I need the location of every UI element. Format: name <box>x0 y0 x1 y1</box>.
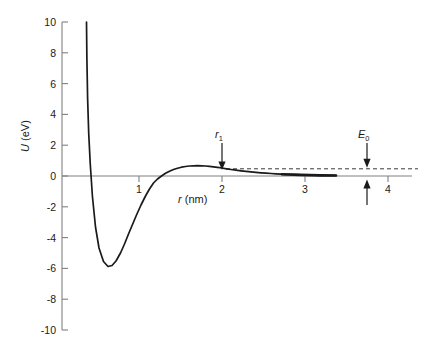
y-axis-title-variable: U <box>19 144 31 152</box>
y-tick-label-4: 4 <box>10 109 56 120</box>
y-axis-title: U (eV) <box>20 120 31 152</box>
y-tick-label-neg2: -2 <box>10 202 56 213</box>
y-tick-label-10: 10 <box>10 17 56 28</box>
x-axis-ticks <box>139 176 388 182</box>
y-tick-label-6: 6 <box>10 79 56 90</box>
E0-annotation-label: E0 <box>358 129 370 140</box>
E0-label-subscript: 0 <box>365 134 369 143</box>
E0-annotation-arrows <box>363 143 370 205</box>
y-tick-label-0: 0 <box>10 171 56 182</box>
x-tick-label-1: 1 <box>129 184 149 195</box>
r1-label-subscript: 1 <box>219 134 223 143</box>
y-tick-label-2: 2 <box>10 140 56 151</box>
y-tick-label-8: 8 <box>10 48 56 59</box>
x-tick-label-4: 4 <box>378 184 398 195</box>
r1-annotation-label: r1 <box>215 129 223 140</box>
y-tick-label-neg10: -10 <box>10 325 56 336</box>
y-tick-label-neg6: -6 <box>10 263 56 274</box>
potential-energy-chart: 10 8 6 4 2 0 -2 -4 -6 -8 -10 1 2 3 4 U (… <box>0 0 432 356</box>
x-tick-label-3: 3 <box>295 184 315 195</box>
y-axis-title-unit: (eV) <box>19 120 31 144</box>
x-tick-label-2: 2 <box>212 184 232 195</box>
potential-curve-tail-emphasis <box>282 174 336 175</box>
r1-annotation-arrow <box>218 143 225 170</box>
y-tick-label-neg4: -4 <box>10 233 56 244</box>
x-axis-title-unit: (nm) <box>182 193 208 205</box>
chart-canvas <box>0 0 432 356</box>
potential-energy-curve <box>87 22 337 267</box>
x-axis-title: r (nm) <box>178 194 207 205</box>
y-tick-label-neg8: -8 <box>10 294 56 305</box>
